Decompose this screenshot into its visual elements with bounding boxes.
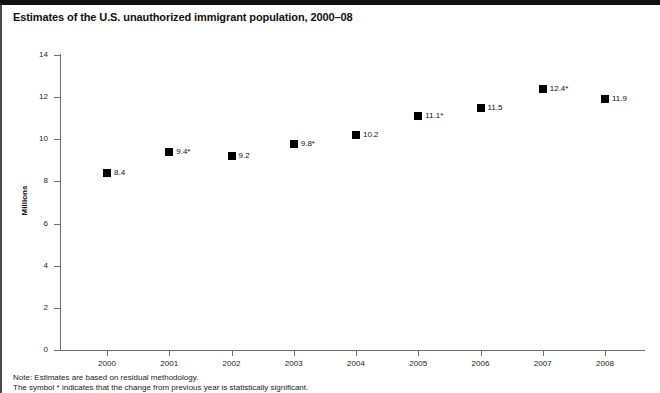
y-axis-line: [60, 54, 61, 351]
data-point-marker: [539, 85, 547, 93]
y-axis-tick: [54, 308, 60, 309]
data-point-marker: [228, 152, 236, 160]
y-axis-tick-label: 14: [8, 50, 48, 59]
y-axis-tick: [54, 224, 60, 225]
data-point-marker: [477, 104, 485, 112]
data-point-label: 9.4*: [176, 147, 190, 156]
y-axis-tick-label: 4: [8, 261, 48, 270]
page-title: Estimates of the U.S. unauthorized immig…: [13, 11, 353, 23]
y-axis-tick-label: 6: [8, 219, 48, 228]
y-axis-tick: [54, 350, 60, 351]
chart-note-line: The symbol * indicates that the change f…: [13, 383, 633, 393]
y-axis-tick: [54, 55, 60, 56]
x-axis-tick: [294, 351, 295, 356]
x-axis-tick-label: 2007: [518, 359, 568, 368]
data-point-label: 10.2: [363, 130, 379, 139]
x-axis-tick: [356, 351, 357, 356]
data-point-label: 11.9: [612, 94, 627, 103]
y-axis-tick-label: 10: [8, 134, 48, 143]
chart-note-line: Note: Estimates are based on residual me…: [13, 373, 633, 383]
y-axis-tick: [54, 139, 60, 140]
left-border-divider: [0, 5, 2, 393]
y-axis-tick-label: 0: [8, 345, 48, 354]
x-axis-tick: [481, 351, 482, 356]
x-axis-tick-label: 2004: [331, 359, 381, 368]
x-axis-tick: [169, 351, 170, 356]
y-axis-tick: [54, 266, 60, 267]
y-axis-tick-label: 12: [8, 92, 48, 101]
data-point-label: 12.4*: [550, 84, 569, 93]
x-axis-tick-label: 2000: [82, 359, 132, 368]
data-point-marker: [352, 131, 360, 139]
y-axis-tick: [54, 181, 60, 182]
x-axis-tick-label: 2001: [144, 359, 194, 368]
chart-notes: Note: Estimates are based on residual me…: [13, 373, 633, 393]
x-axis-tick-label: 2006: [456, 359, 506, 368]
data-point-marker: [414, 112, 422, 120]
data-point-label: 9.2: [239, 151, 250, 160]
y-axis-tick-label: 8: [8, 176, 48, 185]
x-axis-tick-label: 2002: [207, 359, 257, 368]
data-point-marker: [290, 140, 298, 148]
x-axis-tick: [107, 351, 108, 356]
data-point-marker: [165, 148, 173, 156]
x-axis-tick-label: 2005: [393, 359, 443, 368]
data-point-marker: [601, 95, 609, 103]
data-point-label: 11.1*: [425, 111, 443, 120]
data-point-label: 8.4: [114, 168, 125, 177]
x-axis-tick: [605, 351, 606, 356]
x-axis-tick: [418, 351, 419, 356]
x-axis-tick-label: 2008: [580, 359, 630, 368]
chart-figure: Estimates of the U.S. unauthorized immig…: [0, 0, 660, 393]
y-axis-tick: [54, 97, 60, 98]
data-point-label: 11.5: [488, 103, 503, 112]
x-axis-tick: [232, 351, 233, 356]
data-point-label: 9.8*: [301, 139, 315, 148]
x-axis-tick: [543, 351, 544, 356]
y-axis-tick-label: 2: [8, 303, 48, 312]
x-axis-tick-label: 2003: [269, 359, 319, 368]
top-rule-divider: [0, 0, 660, 5]
x-axis-line: [60, 350, 645, 351]
data-point-marker: [103, 169, 111, 177]
